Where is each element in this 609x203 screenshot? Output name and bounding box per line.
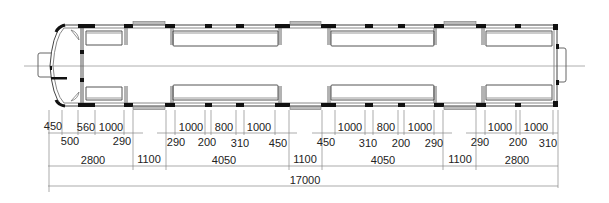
dim-label: 500 xyxy=(61,136,79,147)
dim-total-label: 17000 xyxy=(290,175,321,186)
driver-console xyxy=(51,77,67,80)
cab-door-swings xyxy=(71,30,79,101)
railcar-floor-plan xyxy=(0,0,609,203)
dim-label: 4050 xyxy=(371,155,395,166)
dim-label: 1000 xyxy=(179,122,203,133)
dim-label: 1000 xyxy=(524,122,548,133)
dim-label: 310 xyxy=(231,138,249,149)
dim-label: 560 xyxy=(77,122,95,133)
door-posts xyxy=(125,28,484,103)
dim-label: 450 xyxy=(317,137,335,148)
dim-label: 1100 xyxy=(293,154,317,165)
side-doors xyxy=(133,22,476,110)
right-coupler xyxy=(557,48,566,82)
dim-label: 2800 xyxy=(81,155,105,166)
left-coupler xyxy=(38,53,51,77)
dim-label: 290 xyxy=(471,137,489,148)
dim-label: 800 xyxy=(215,122,233,133)
dim-label: 800 xyxy=(377,122,395,133)
dim-label: 290 xyxy=(425,138,443,149)
dim-label: 290 xyxy=(167,137,185,148)
dim-label: 200 xyxy=(392,138,410,149)
wall-pillars xyxy=(78,24,559,107)
dim-label: 2800 xyxy=(505,155,529,166)
dim-label: 1000 xyxy=(99,122,123,133)
dim-label: 200 xyxy=(509,137,527,148)
dim-label: 200 xyxy=(198,137,216,148)
dim-label: 310 xyxy=(539,138,557,149)
dim-label: 1100 xyxy=(448,154,472,165)
dim-label: 1000 xyxy=(408,122,432,133)
nose-wall xyxy=(56,25,65,106)
dim-label: 1000 xyxy=(338,122,362,133)
dim-label: 290 xyxy=(113,136,131,147)
dim-label: 1000 xyxy=(247,122,271,133)
dim-label: 450 xyxy=(44,121,62,132)
dim-label: 310 xyxy=(359,138,377,149)
dim-label: 1100 xyxy=(137,154,161,165)
dim-label: 1000 xyxy=(488,122,512,133)
car-body xyxy=(50,25,557,106)
dim-label: 4050 xyxy=(212,155,236,166)
cab-bulkhead xyxy=(80,28,84,103)
dim-label: 450 xyxy=(269,138,287,149)
